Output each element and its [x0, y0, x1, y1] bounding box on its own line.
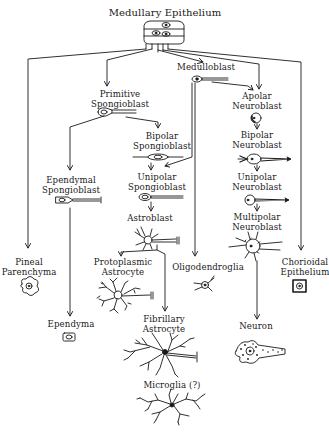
label-bipolar-neuroblast: Bipolar Neuroblast [232, 131, 282, 150]
primitive-spongioblast-cell-icon [98, 108, 136, 116]
label-ependyma: Ependyma [48, 320, 95, 330]
ependyma-cell-icon [63, 333, 75, 341]
medulloblast-cell-icon [192, 76, 228, 82]
label-microglia: Microglia (?) [143, 381, 200, 391]
ependymal-spongioblast-cell-icon [56, 197, 101, 203]
medullary-epithelium-cell-icon [144, 21, 184, 52]
bipolar-spongioblast-cell-icon [133, 154, 183, 160]
fibrillary-astrocyte-cell-icon [124, 333, 197, 377]
microglia-cell-icon [137, 389, 205, 425]
protoplasmic-astrocyte-cell-icon [97, 278, 153, 313]
label-oligodendroglia: Oligodendroglia [172, 263, 244, 273]
label-multipolar-neuroblast: Multipolar Neuroblast [232, 213, 282, 232]
pineal-parenchyma-cell-icon [21, 277, 39, 296]
label-ependymal-spongioblast: Ependymal Spongioblast [42, 176, 100, 195]
bipolar-neuroblast-cell-icon [238, 154, 291, 164]
apolar-neuroblast-cell-icon [251, 113, 261, 123]
label-protoplasmic-astrocyte: Protoplasmic Astrocyte [94, 258, 152, 277]
label-chorioidal-epithelium: Chorioidal Epithelium [281, 258, 329, 277]
label-medulloblast: Medulloblast [177, 63, 235, 73]
label-neuron: Neuron [239, 322, 273, 332]
cell-lineage-diagram: Medullary Epithelium Medulloblast Primit… [0, 0, 329, 438]
chorioidal-epithelium-cell-icon [293, 280, 306, 292]
label-unipolar-spongioblast: Unipolar Spongioblast [128, 173, 186, 192]
oligodendroglia-cell-icon [194, 276, 214, 291]
label-unipolar-neuroblast: Unipolar Neuroblast [232, 173, 282, 192]
label-fibrillary-astrocyte: Fibrillary Astrocyte [143, 315, 185, 334]
unipolar-neuroblast-cell-icon [245, 195, 289, 205]
label-pineal-parenchyma: Pineal Parenchyma [2, 258, 57, 277]
multipolar-neuroblast-cell-icon [229, 232, 282, 261]
label-bipolar-spongioblast: Bipolar Spongioblast [133, 132, 191, 151]
unipolar-spongioblast-cell-icon [139, 194, 183, 201]
label-apolar-neuroblast: Apolar Neuroblast [232, 92, 282, 111]
label-primitive-spongioblast: Primitive Spongioblast [91, 90, 149, 109]
neuron-cell-icon [235, 341, 285, 364]
label-astroblast: Astroblast [127, 214, 173, 224]
label-medullary-epithelium: Medullary Epithelium [109, 7, 222, 18]
